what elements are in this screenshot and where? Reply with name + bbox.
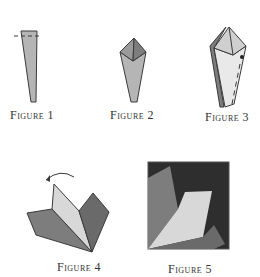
figure-4-caption: Figure 4 (57, 260, 101, 275)
rotate-arrow (46, 173, 74, 180)
figure-4-drawing (27, 173, 109, 252)
figure-2-drawing (120, 38, 146, 102)
figure-2-caption: Figure 2 (110, 108, 154, 123)
point-marker (240, 55, 244, 59)
figure-5-drawing (148, 162, 229, 249)
arrow-head (46, 175, 50, 182)
figure-3-caption: Figure 3 (205, 110, 249, 125)
origami-diagram (0, 0, 260, 277)
figure-5-caption: Figure 5 (168, 262, 212, 277)
figure-1-caption: Figure 1 (10, 108, 54, 123)
figure-3-drawing (210, 27, 246, 107)
figure-1-drawing (14, 31, 41, 102)
